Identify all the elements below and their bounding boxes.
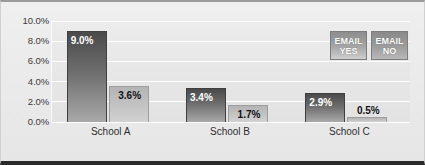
data-label: 9.0% (71, 36, 105, 46)
bar-group: 3.4%1.7% (186, 21, 268, 122)
x-axis-labels: School ASchool BSchool C (51, 126, 409, 144)
data-label: 3.4% (190, 93, 224, 103)
data-label: 0.5% (351, 106, 385, 116)
y-axis-tick-label: 10.0% (3, 16, 49, 25)
x-axis-category-label: School B (170, 126, 289, 138)
bar-chart: 0.0%2.0%4.0%6.0%8.0%10.0% 9.0%3.6%3.4%1.… (0, 0, 425, 165)
legend-label-line1: EMAIL (376, 36, 404, 46)
bar-email-no[interactable] (347, 117, 387, 122)
y-axis-tick-label: 2.0% (3, 97, 49, 106)
legend-item-email-no[interactable]: EMAIL NO (371, 31, 408, 60)
y-axis-tick-label: 0.0% (3, 117, 49, 126)
legend-item-email-yes[interactable]: EMAIL YES (330, 31, 367, 60)
data-label: 3.6% (113, 91, 147, 101)
chart-legend: EMAIL YES EMAIL NO (330, 31, 408, 60)
data-label: 1.7% (232, 110, 266, 120)
data-label: 2.9% (309, 98, 343, 108)
x-axis-category-label: School A (51, 126, 170, 138)
y-axis-tick-label: 6.0% (3, 56, 49, 65)
legend-label-line2: NO (383, 46, 397, 56)
y-axis-tick-label: 8.0% (3, 36, 49, 45)
y-axis: 0.0%2.0%4.0%6.0%8.0%10.0% (1, 21, 49, 122)
legend-label-line2: YES (339, 46, 357, 56)
y-axis-tick-label: 4.0% (3, 77, 49, 86)
x-axis-category-label: School C (290, 126, 409, 138)
bar-group: 9.0%3.6% (67, 21, 149, 122)
legend-label-line1: EMAIL (335, 36, 363, 46)
